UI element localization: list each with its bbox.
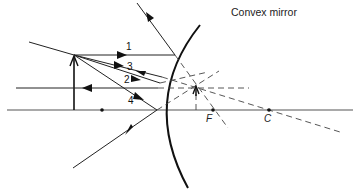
axis-point xyxy=(100,108,104,112)
ray-2-label: 2 xyxy=(124,74,130,85)
focal-point xyxy=(211,108,215,112)
ray-4-arrow-icon xyxy=(133,92,144,100)
ray-4-reflected-arrow-icon xyxy=(125,124,133,135)
ray-3-label: 3 xyxy=(127,61,133,72)
ray-2-reflected-arrow-icon xyxy=(82,84,92,92)
focal-point-label: F xyxy=(206,113,213,124)
ray-1-label: 1 xyxy=(126,41,132,52)
ray-3-arrow-icon xyxy=(114,61,124,69)
diagram-title: Convex mirror xyxy=(231,6,297,18)
ray-diagram: Convex mirror 1 3 2 4 F xyxy=(0,0,357,191)
ray-1-virtual-extension xyxy=(175,55,228,128)
ray-1-reflected xyxy=(137,3,175,55)
ray-4-virtual-extension xyxy=(157,71,219,110)
convex-mirror xyxy=(167,25,200,188)
ray-2 xyxy=(74,55,160,83)
reflected-ray-3-outgoing xyxy=(29,42,74,55)
ray-4-reflected xyxy=(73,110,157,168)
ray-4-label: 4 xyxy=(128,95,134,106)
ray-2-virtual-extension xyxy=(160,72,208,83)
ray-1-reflected-arrow-icon xyxy=(146,12,154,22)
center-of-curvature xyxy=(267,108,271,112)
ray-3-virtual-extension xyxy=(162,77,340,132)
center-of-curvature-label: C xyxy=(264,113,272,124)
ray-1-arrow-icon xyxy=(117,51,127,59)
